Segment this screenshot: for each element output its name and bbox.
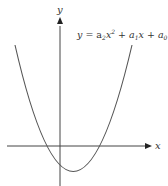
parabola-diagram: y x y = a2x2 + a1x + a0 bbox=[0, 0, 168, 186]
x-axis-arrow-icon bbox=[145, 143, 152, 149]
y-axis-arrow-icon bbox=[57, 17, 63, 24]
equation-label: y = a2x2 + a1x + a0 bbox=[76, 28, 168, 41]
x-axis-label: x bbox=[155, 140, 161, 151]
y-axis-label: y bbox=[56, 4, 63, 15]
parabola-curve bbox=[15, 45, 132, 172]
